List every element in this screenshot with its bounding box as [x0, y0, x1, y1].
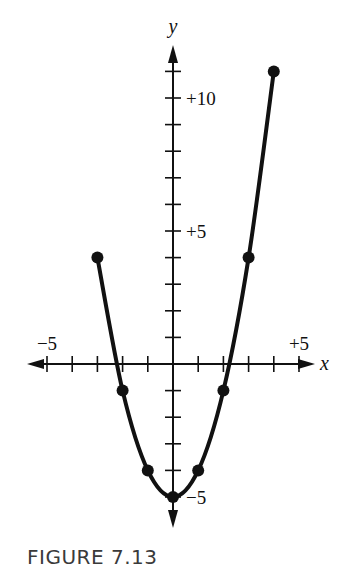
y-axis-up-arrow-icon — [168, 45, 178, 63]
y-tick-label: +10 — [186, 88, 216, 109]
x-axis-right-arrow-icon — [298, 359, 315, 369]
axis-labels: −5+5+10+5−5xy — [37, 15, 329, 508]
data-point-marker — [142, 464, 154, 476]
data-point-marker — [117, 385, 129, 397]
x-axis-name: x — [319, 352, 329, 374]
data-points — [91, 65, 279, 503]
parabola-figure: −5+5+10+5−5xy — [0, 0, 356, 574]
data-point-marker — [167, 491, 179, 503]
data-point-marker — [243, 252, 255, 264]
data-point-marker — [268, 65, 280, 77]
data-point-marker — [217, 385, 229, 397]
parabola-curve — [97, 71, 273, 497]
y-axis-name: y — [167, 15, 178, 38]
y-tick-label: +5 — [186, 221, 206, 242]
y-axis-down-arrow-icon — [168, 510, 178, 528]
axes — [27, 45, 315, 528]
x-axis-left-arrow-icon — [27, 359, 44, 369]
x-tick-label: −5 — [37, 333, 57, 354]
data-point-marker — [91, 252, 103, 264]
figure-caption: FIGURE 7.13 — [27, 545, 157, 569]
x-tick-label: +5 — [289, 333, 309, 354]
y-tick-label: −5 — [186, 487, 206, 508]
data-point-marker — [192, 464, 204, 476]
